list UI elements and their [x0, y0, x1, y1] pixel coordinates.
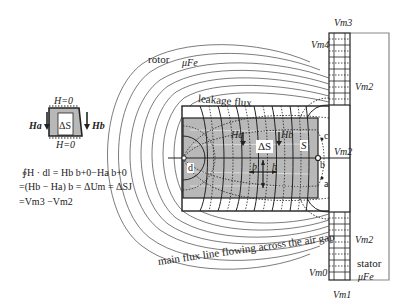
equation-line-1: ∮H · dl = Hb b+0−Ha b+0 [22, 168, 127, 178]
vm2-top-label: Vm2 [355, 82, 373, 92]
flux-diagram: rotor μFe leakage flux main flux line fl… [0, 0, 410, 308]
inset-h-top-label: H=0 [54, 96, 73, 106]
h-dim-label: h [272, 162, 277, 172]
stator-tooth-bottom [329, 212, 350, 280]
inset-h-bottom-label: H=0 [56, 140, 75, 150]
point-b-label: b [320, 160, 325, 170]
ha-field-label: Ha [231, 130, 243, 140]
stator-label: stator [357, 258, 381, 269]
rotor-label: rotor [148, 54, 169, 65]
point-a-label: a [324, 179, 328, 189]
vm2-bottom-label: Vm2 [355, 235, 373, 245]
inset-delta-s-label: ΔS [59, 121, 71, 131]
inset-hb-label: Hb [92, 121, 105, 131]
point-d-label: d [187, 163, 194, 173]
vm0-label: Vm0 [309, 268, 327, 278]
vm1-label: Vm1 [333, 290, 351, 300]
s-label: S [300, 140, 308, 151]
vm4-label: Vm4 [311, 40, 329, 50]
point-d-marker [182, 156, 186, 160]
mu-fe-stator-label: μFe [358, 272, 374, 282]
vm3-label: Vm3 [334, 18, 352, 28]
equation-line-3: =Vm3 −Vm2 [19, 197, 73, 207]
b-dim-label: b [252, 162, 257, 172]
vm2-mid-label: Vm2 [334, 147, 352, 157]
point-c-label: c [324, 131, 328, 141]
stator-tooth-top [329, 33, 350, 105]
equation-line-2: =(Hb − Ha) b = ΔUm = ΔSJ [19, 182, 132, 192]
inset-ha-label: Ha [29, 121, 42, 131]
delta-s-label: ΔS [256, 140, 273, 153]
hb-field-label: Hb [281, 130, 293, 140]
mu-fe-rotor-label: μFe [182, 58, 198, 68]
